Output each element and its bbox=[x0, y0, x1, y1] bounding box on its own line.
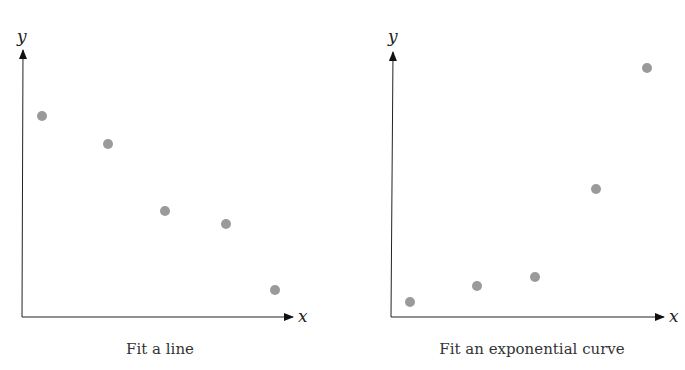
data-point bbox=[221, 219, 231, 229]
left-x-axis-label: x bbox=[298, 306, 308, 326]
right-x-axis-label: x bbox=[669, 306, 679, 326]
data-point bbox=[472, 281, 482, 291]
left-points bbox=[37, 111, 280, 295]
data-point bbox=[530, 272, 540, 282]
right-y-axis bbox=[391, 52, 393, 317]
left-y-axis bbox=[22, 50, 23, 317]
charts-canvas: y x y x bbox=[0, 0, 685, 370]
data-point bbox=[103, 139, 113, 149]
data-point bbox=[642, 63, 652, 73]
right-chart: y x bbox=[387, 26, 679, 326]
data-point bbox=[270, 285, 280, 295]
data-point bbox=[405, 297, 415, 307]
right-caption: Fit an exponential curve bbox=[439, 340, 624, 358]
left-caption: Fit a line bbox=[126, 340, 194, 358]
left-chart: y x bbox=[16, 26, 308, 326]
left-y-axis-label: y bbox=[16, 26, 27, 46]
right-points bbox=[405, 63, 652, 307]
data-point bbox=[160, 206, 170, 216]
data-point bbox=[591, 184, 601, 194]
data-point bbox=[37, 111, 47, 121]
right-y-axis-label: y bbox=[387, 26, 398, 46]
